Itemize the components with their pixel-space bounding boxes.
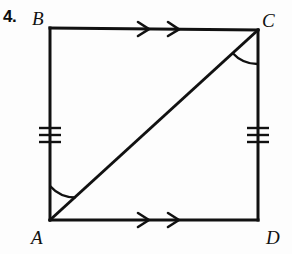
angle-arc-bac bbox=[50, 186, 76, 198]
geometry-drawing bbox=[0, 0, 292, 254]
vertex-label-a: A bbox=[31, 228, 43, 247]
vertex-label-d: D bbox=[266, 228, 280, 247]
vertex-label-b: B bbox=[32, 9, 44, 28]
vertex-label-c: C bbox=[262, 11, 275, 30]
geometry-figure: 4. bbox=[0, 0, 292, 254]
angle-arc-acd bbox=[233, 53, 259, 64]
diagonal-ac bbox=[50, 30, 258, 220]
segment-bc bbox=[50, 28, 258, 30]
